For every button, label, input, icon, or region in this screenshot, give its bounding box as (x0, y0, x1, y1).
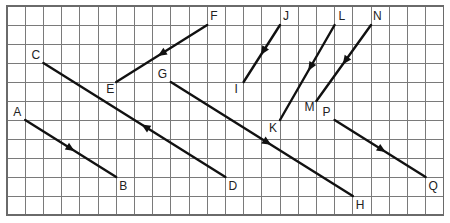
point-label-K: K (269, 121, 277, 135)
point-label-B: B (119, 179, 127, 193)
point-label-F: F (210, 9, 217, 23)
grid (7, 6, 444, 215)
point-label-I: I (235, 82, 238, 96)
point-label-A: A (13, 105, 21, 119)
point-label-E: E (106, 82, 114, 96)
point-label-C: C (31, 48, 40, 62)
point-label-L: L (339, 9, 346, 23)
vector-AB (25, 120, 116, 177)
point-label-J: J (283, 9, 289, 23)
point-label-G: G (158, 67, 167, 81)
point-label-N: N (373, 9, 382, 23)
point-label-P: P (323, 105, 331, 119)
point-label-H: H (356, 198, 365, 212)
vector-grid-diagram: ABCDEFGHIJKLMNPQ (0, 0, 450, 223)
point-label-M: M (304, 100, 314, 114)
vector-PQ (335, 120, 426, 177)
point-label-Q: Q (429, 179, 438, 193)
point-label-D: D (228, 179, 237, 193)
